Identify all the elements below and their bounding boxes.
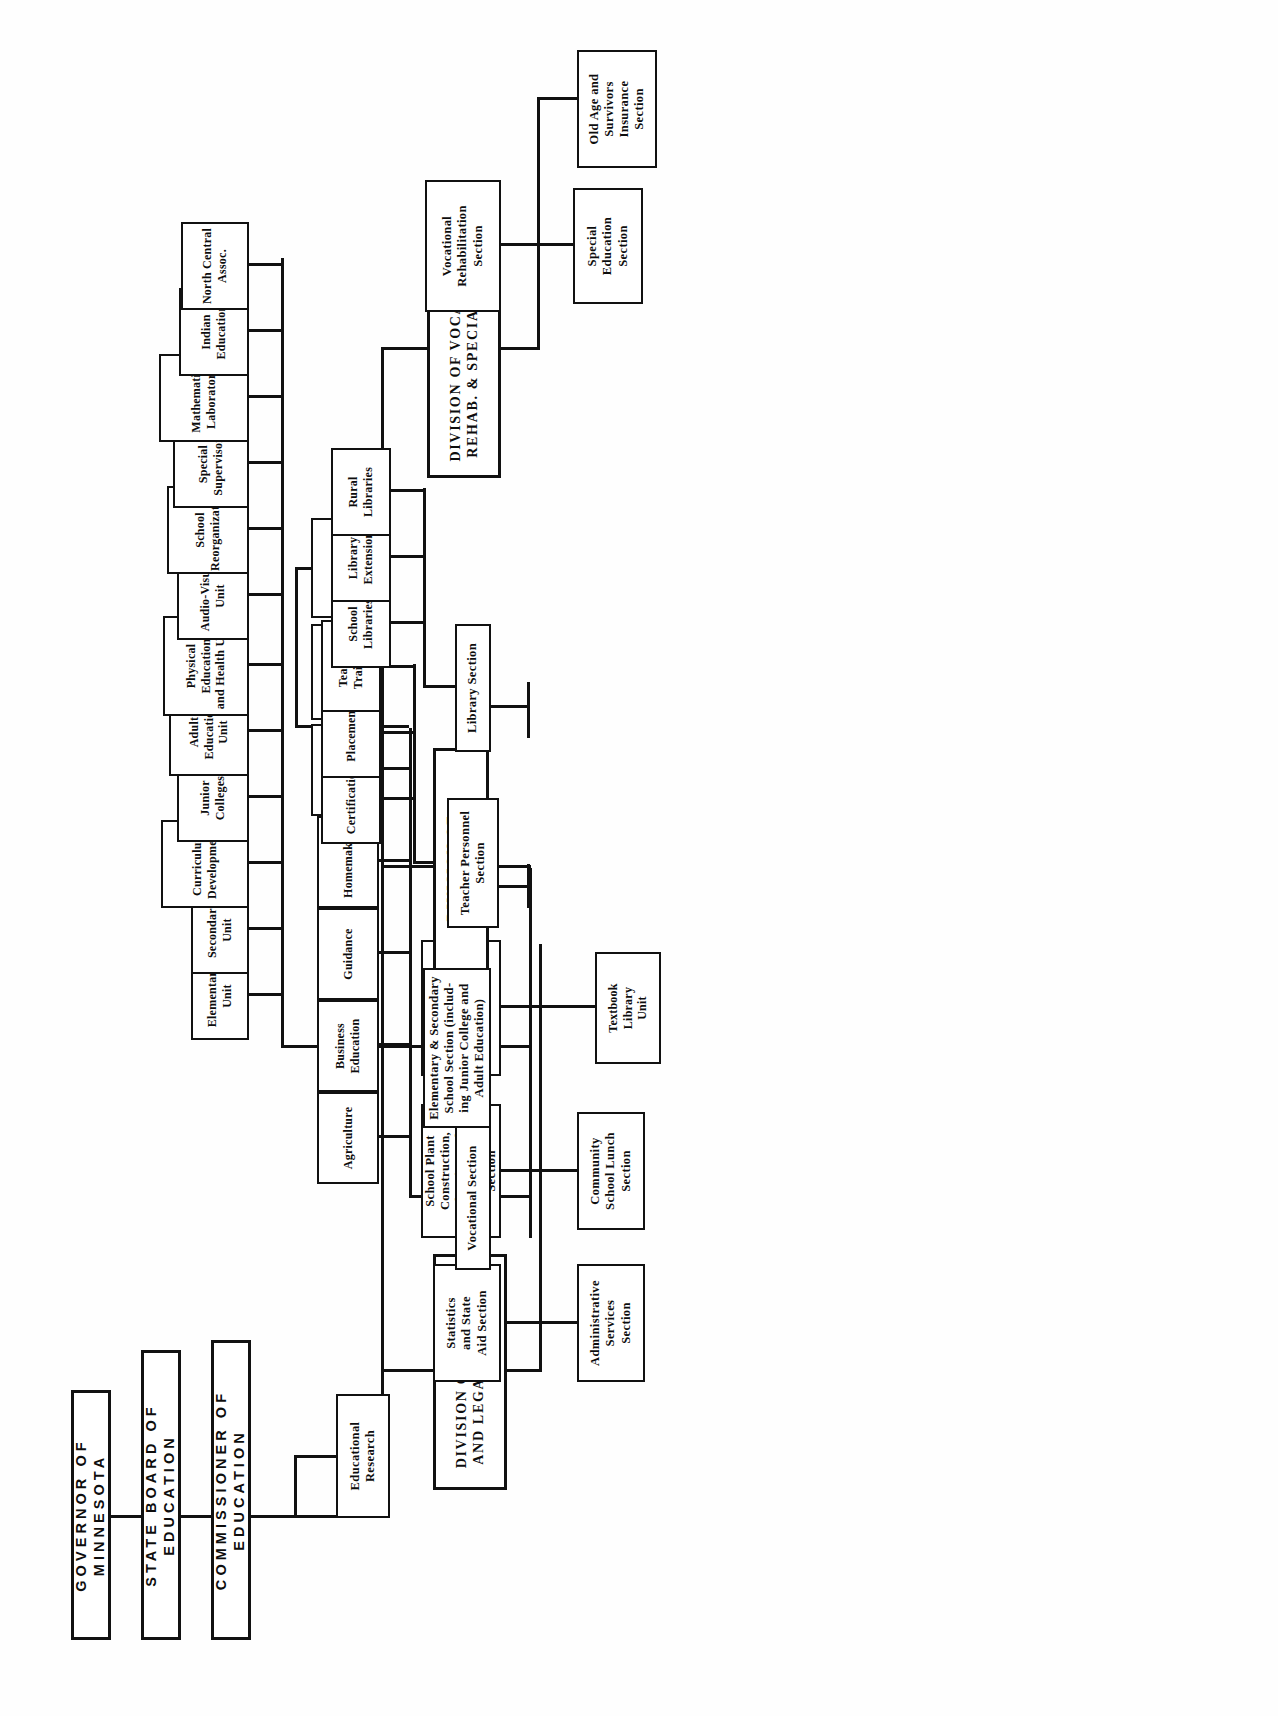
connector-library-unit-1 [391, 556, 423, 559]
connector-voc-unit-0 [379, 1136, 409, 1139]
connector-elem-unit-10 [249, 330, 281, 333]
connector-elem-unit-4 [249, 730, 281, 733]
connector-elem-unit-11 [249, 264, 281, 267]
connector-voc-unit-2 [379, 952, 409, 955]
box-governor-of-minnesota: GOVERNOR OF MINNESOTA [71, 1390, 111, 1640]
connector-elem-unit-9 [249, 396, 281, 399]
connector-elem-unit-0 [249, 994, 281, 997]
box-textbook-library-unit: Textbook Library Unit [595, 952, 661, 1064]
box-educational-research: Educational Research [336, 1394, 390, 1518]
connector-div-instruction-bus [529, 868, 532, 1238]
box-old-age-survivors-insurance-section: Old Age and Survivors Insurance Section [577, 50, 657, 168]
connector-commissioner-to-research [294, 1456, 297, 1518]
connector-special-education [537, 244, 573, 247]
connector-teacher-unit-0 [381, 798, 413, 801]
connector-library-unit-0 [391, 622, 423, 625]
connector-div-vocrehab-drop [501, 348, 539, 351]
connector-elem-unit-7 [249, 528, 281, 531]
box-vocational-section: Vocational Section [455, 1126, 491, 1270]
box-teacher-personnel-section: Teacher Personnel Section [447, 798, 499, 928]
connector-bus-to-div-vocrehab [381, 348, 427, 351]
box-library-section: Library Section [455, 624, 491, 752]
box-vocational-unit: Agriculture [317, 1092, 379, 1184]
connector-voc-unit-3 [379, 860, 409, 863]
connector-bus-to-div-business [381, 1370, 433, 1373]
connector-div-business-bus [539, 944, 542, 1372]
org-chart-page: GOVERNOR OF MINNESOTA STATE BOARD OF EDU… [0, 0, 1278, 1716]
connector-library-unit-2 [391, 490, 423, 493]
connector-voc-unit-6-arm [295, 568, 298, 728]
box-vocational-unit: Business Education [317, 1000, 379, 1092]
connector-school-plant [501, 1170, 539, 1173]
box-library-unit: Rural Libraries [331, 448, 391, 536]
connector-teacher-unit-1 [381, 732, 413, 735]
connector-elem-unit-1 [249, 928, 281, 931]
connector-vocational-rehabilitation [501, 244, 539, 247]
box-vocational-unit: Guidance [317, 908, 379, 1000]
connector-library-children-bus [423, 488, 426, 688]
connector-community-school-lunch [539, 1170, 577, 1173]
box-elementary-secondary-school-section: Elementary & Secondary School Section (i… [423, 968, 491, 1128]
connector-elem-unit-5 [249, 664, 281, 667]
connector-library-arm [527, 682, 530, 738]
connector-teacher-children-bus [413, 664, 416, 864]
connector-elem-children-bus [281, 258, 284, 1048]
connector-administrative-services [539, 1322, 577, 1325]
connector-elem-unit-8 [249, 462, 281, 465]
connector-library-section [489, 706, 529, 709]
box-community-school-lunch-section: Community School Lunch Section [577, 1112, 645, 1230]
connector-old-age-survivors [537, 98, 577, 101]
connector-pupil-transportation [501, 1006, 539, 1009]
box-statistics-and-state-aid-section: Statistics and State Aid Section [433, 1264, 501, 1382]
box-commissioner-of-education: COMMISSIONER OF EDUCATION [211, 1340, 251, 1640]
connector-governor-to-board [111, 1516, 141, 1519]
connector-textbook-library [539, 1006, 595, 1009]
box-administrative-services-section: Administrative Services Section [577, 1264, 645, 1382]
connector-bus-to-div-instruction [381, 866, 433, 869]
connector-div-vocrehab-bus [537, 98, 540, 350]
box-vocational-rehabilitation-section: Vocational Rehabilitation Section [425, 180, 501, 312]
connector-elem-unit-2 [249, 862, 281, 865]
box-state-board-of-education: STATE BOARD OF EDUCATION [141, 1350, 181, 1640]
connector-teacher-personnel-arm [527, 864, 530, 908]
box-elementary-secondary-unit: North Central Assoc. [181, 222, 249, 310]
connector-voc-unit-4 [379, 768, 409, 771]
box-special-education-section: Special Education Section [573, 188, 643, 304]
connector-board-to-commissioner [181, 1516, 211, 1519]
connector-library-children-drop [423, 686, 455, 689]
connector-div-business-drop [507, 1370, 541, 1373]
connector-elem-unit-3 [249, 796, 281, 799]
connector-research-drop [294, 1456, 336, 1459]
org-chart-canvas: GOVERNOR OF MINNESOTA STATE BOARD OF EDU… [49, 48, 1229, 1668]
connector-elem-unit-6 [249, 594, 281, 597]
